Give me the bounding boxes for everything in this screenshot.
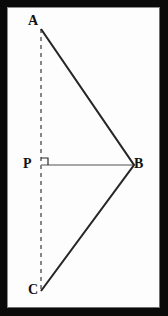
figure-border-frame: A P B C bbox=[0, 0, 168, 316]
vertex-label-p: P bbox=[23, 157, 32, 171]
vertex-label-c: C bbox=[28, 283, 38, 297]
vertex-label-a: A bbox=[28, 14, 38, 28]
vertex-label-b: B bbox=[134, 157, 143, 171]
figure-canvas: A P B C bbox=[7, 7, 160, 308]
right-angle-marker-icon bbox=[41, 158, 48, 165]
segment-AB-BC-solid bbox=[41, 29, 134, 291]
